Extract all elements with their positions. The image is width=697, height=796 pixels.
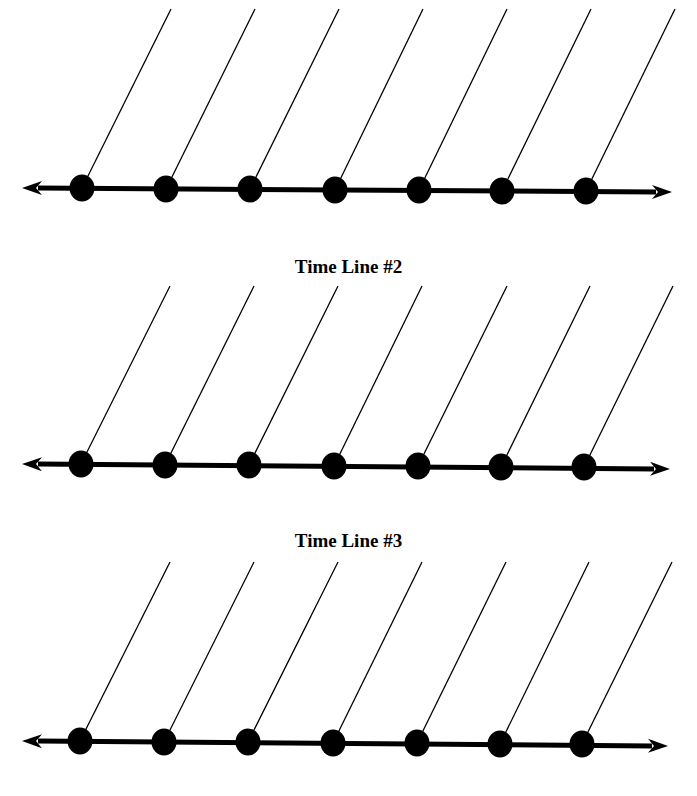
diagonal-line (333, 562, 422, 743)
diagonal-line (584, 286, 673, 467)
diagonal-line (165, 286, 254, 465)
timeline-dot (154, 176, 179, 203)
diagonal-line (582, 562, 672, 744)
timeline-dot (570, 731, 595, 758)
diagonal-line (164, 562, 254, 742)
diagonal-line (419, 9, 507, 190)
timeline-dot (322, 453, 347, 480)
timeline-1 (22, 9, 675, 205)
diagonal-line (249, 286, 338, 465)
diagonal-line (417, 562, 506, 743)
diagonal-line (418, 286, 507, 466)
timelines-diagram (0, 0, 697, 796)
diagonal-line (335, 9, 423, 190)
diagonal-line (250, 9, 339, 189)
diagonal-line (166, 9, 255, 189)
timeline-dot (406, 453, 431, 480)
timeline-dot (323, 177, 348, 204)
diagonal-line (81, 286, 170, 464)
diagonal-line (586, 9, 675, 191)
timeline-dot (321, 730, 346, 757)
timeline-dot (69, 451, 94, 478)
timeline-dot (489, 454, 514, 481)
timeline-dot (237, 452, 262, 479)
diagonal-line (500, 562, 589, 744)
timeline-2 (22, 286, 673, 481)
timeline-dot (572, 454, 597, 481)
diagonal-line (334, 286, 422, 466)
timeline-dot (236, 729, 261, 756)
diagonal-line (248, 562, 338, 742)
timeline-dot (574, 178, 599, 205)
timeline-dot (152, 729, 177, 756)
timeline-dot (68, 728, 93, 755)
timeline-dot (488, 731, 513, 758)
timeline-dot (407, 177, 432, 204)
diagonal-line (82, 9, 171, 188)
diagonal-line (502, 9, 591, 191)
timeline-dot (490, 178, 515, 205)
timeline-3 (22, 562, 672, 758)
timeline-dot (70, 175, 95, 202)
diagonal-line (80, 562, 170, 741)
timeline-dot (405, 730, 430, 757)
diagonal-line (501, 286, 590, 467)
timeline-dot (153, 452, 178, 479)
timeline-dot (238, 176, 263, 203)
